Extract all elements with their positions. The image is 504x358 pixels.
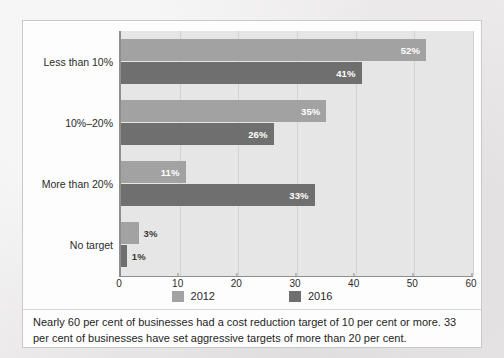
x-tick-mark: [119, 273, 120, 277]
bar-value-label: 11%: [161, 167, 180, 178]
gridline-60: [473, 31, 474, 276]
bar-value-label: 26%: [248, 128, 267, 139]
bar-2016[interactable]: 26%: [121, 123, 274, 145]
legend-label-2012: 2012: [191, 290, 215, 302]
plot-area: Less than 10%52%41%10%–20%35%26%More tha…: [119, 31, 473, 276]
bar-value-label: 1%: [132, 251, 146, 262]
bar-value-label: 33%: [289, 190, 308, 201]
bar-value-label: 3%: [144, 228, 158, 239]
category-label: No target: [70, 239, 113, 251]
bar-group: 10%–20%35%26%: [121, 92, 473, 153]
legend-item-2012[interactable]: 2012: [172, 290, 215, 302]
bar-2012[interactable]: 52%: [121, 39, 426, 61]
category-label: More than 20%: [42, 178, 113, 190]
caption-divider: [23, 309, 481, 310]
bar-chart: Less than 10%52%41%10%–20%35%26%More tha…: [23, 21, 481, 283]
bar-group: No target3%1%: [121, 215, 473, 276]
bar-group: More than 20%11%33%: [121, 154, 473, 215]
bar-2016[interactable]: 41%: [121, 62, 362, 84]
category-label: Less than 10%: [44, 56, 113, 68]
chart-card: Less than 10%52%41%10%–20%35%26%More tha…: [22, 20, 482, 348]
bar-2012[interactable]: 11%: [121, 161, 186, 183]
category-label: 10%–20%: [65, 117, 113, 129]
chart-legend: 2012 2016: [23, 286, 481, 306]
x-tick-mark: [236, 273, 237, 277]
bar-2012[interactable]: 35%: [121, 100, 326, 122]
bar-value-label: 41%: [336, 67, 355, 78]
bar-2012[interactable]: 3%: [121, 222, 139, 244]
x-tick-mark: [354, 273, 355, 277]
bar-group: Less than 10%52%41%: [121, 31, 473, 92]
legend-label-2016: 2016: [308, 290, 332, 302]
bar-2016[interactable]: 1%: [121, 245, 127, 267]
x-tick-mark: [295, 273, 296, 277]
bar-value-label: 52%: [401, 44, 420, 55]
bar-2016[interactable]: 33%: [121, 184, 315, 206]
chart-caption: Nearly 60 per cent of businesses had a c…: [33, 315, 469, 346]
x-tick-mark: [412, 273, 413, 277]
legend-swatch-2012: [172, 291, 184, 302]
bar-value-label: 35%: [301, 105, 320, 116]
legend-item-2016[interactable]: 2016: [289, 290, 332, 302]
x-tick-mark: [178, 273, 179, 277]
x-tick-mark: [471, 273, 472, 277]
legend-swatch-2016: [289, 291, 301, 302]
